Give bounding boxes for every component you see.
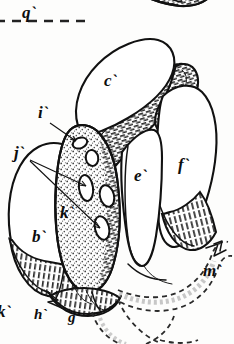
label-q: q` <box>22 3 37 22</box>
illustration-canvas: q` c` i` j` e` f` k` b` m` k` h` g` <box>0 0 234 344</box>
label-g: g` <box>67 309 81 325</box>
label-i: i` <box>38 103 49 122</box>
label-j: j` <box>11 143 25 162</box>
label-h: h` <box>34 306 47 322</box>
label-b: b` <box>32 227 47 246</box>
label-m: m` <box>203 261 222 280</box>
label-k-lower: k` <box>0 302 12 321</box>
label-f: f` <box>178 155 190 174</box>
label-k: k` <box>60 203 75 222</box>
figure-root: q` c` i` j` e` f` k` b` m` k` h` g` <box>0 0 234 344</box>
label-e: e` <box>134 166 148 185</box>
label-c: c` <box>104 71 118 90</box>
